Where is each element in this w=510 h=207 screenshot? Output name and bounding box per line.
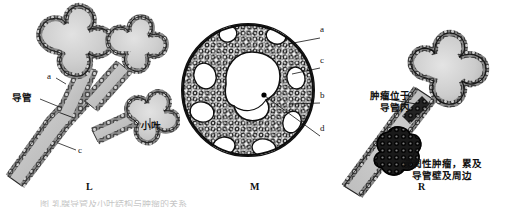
label-b-mid-panel: b [320,90,325,100]
label-a-left-panel: a [47,71,51,81]
figure-container: a 导管 c 小叶 [0,0,510,207]
label-invasive-line1: 浸润性肿瘤，累及 [402,158,482,170]
panel-left-normal-lobule: a 导管 c 小叶 [0,0,180,207]
figure-caption: 图 乳腺导管及小叶结构与肿瘤的关系 [40,200,187,207]
panel-letter-L: L [86,181,93,192]
label-intraductal-line1: 肿瘤位于 [358,90,410,102]
label-c-left-panel: c [78,145,82,155]
panel-letter-R: R [418,181,426,192]
panel-mid-duct-cross-section [180,0,320,207]
panel-mid-artwork [180,0,320,207]
label-c-mid-panel: c [320,55,324,65]
panel-letter-M: M [250,181,260,192]
label-intraductal-line2: 导管内 [358,102,410,114]
label-a-mid-panel: a [320,24,324,34]
label-invasive-line2: 导管壁及周边 [402,170,482,182]
figure-caption-strip: 图 乳腺导管及小叶结构与肿瘤的关系 [0,200,510,207]
label-intraductal-tumor: 肿瘤位于 导管内 [358,90,410,113]
label-lobule-left-panel: 小叶 [141,120,161,132]
label-invasive-tumor: 浸润性肿瘤，累及 导管壁及周边 [402,158,482,181]
panel-left-artwork [0,0,180,207]
label-duct-left-panel: 导管 [12,92,32,104]
label-d-mid-panel: d [320,123,325,133]
